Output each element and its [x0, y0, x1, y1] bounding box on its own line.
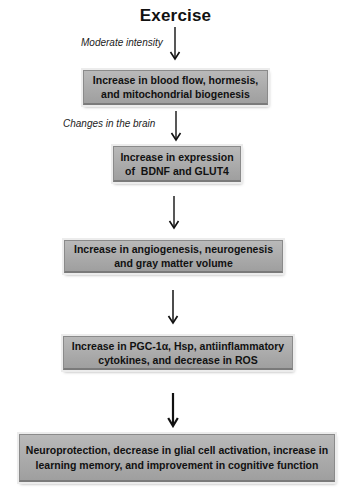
step-1-line-1: Increase in blood flow, hormesis, [93, 73, 258, 87]
edge-label-moderate-intensity: Moderate intensity [81, 37, 163, 48]
step-3-line-1: Increase in angiogenesis, neurogenesis [74, 242, 273, 256]
step-box-3: Increase in angiogenesis, neurogenesis a… [64, 240, 283, 273]
step-box-4: Increase in PGC-1α, Hsp, antiinflammator… [63, 336, 293, 370]
step-box-2: Increase in expression of BDNF and GLUT4 [113, 146, 241, 182]
edge-label-changes-in-brain: Changes in the brain [63, 118, 155, 129]
step-box-1: Increase in blood flow, hormesis, and mi… [83, 70, 268, 105]
step-2-line-1: Increase in expression [120, 150, 233, 164]
step-5-line-1: Neuroprotection, decrease in glial cell … [26, 443, 328, 458]
arrow-down-icon [168, 196, 180, 230]
arrow-down-icon [169, 27, 181, 61]
step-2-line-2: of BDNF and GLUT4 [120, 164, 233, 178]
step-box-5: Neuroprotection, decrease in glial cell … [19, 434, 335, 482]
step-4-line-1: Increase in PGC-1α, Hsp, antiinflammator… [72, 339, 284, 353]
diagram-title: Exercise [0, 6, 351, 26]
arrow-down-icon [170, 111, 182, 142]
step-5-line-2: learning memory, and improvement in cogn… [26, 458, 328, 473]
step-1-line-2: and mitochondrial biogenesis [93, 87, 258, 101]
step-4-line-2: cytokines, and decrease in ROS [72, 353, 284, 367]
step-3-line-2: and gray matter volume [74, 256, 273, 270]
arrow-down-icon [167, 393, 179, 428]
arrow-down-icon [167, 290, 179, 325]
